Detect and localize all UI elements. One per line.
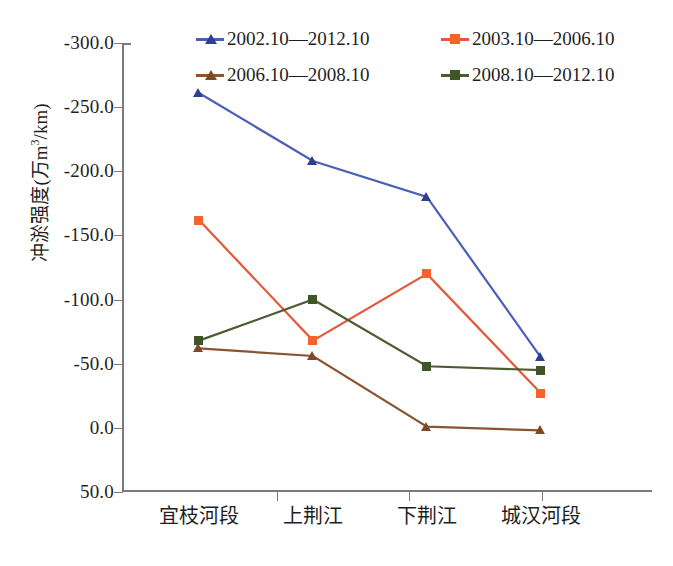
y-axis-tick	[114, 235, 123, 236]
legend-swatch	[441, 68, 469, 82]
legend-label: 2008.10—2012.10	[472, 64, 615, 86]
legend-item[interactable]: 2003.10—2006.10	[441, 28, 615, 50]
data-point-marker	[194, 336, 203, 345]
legend-swatch	[196, 32, 224, 46]
legend-swatch	[441, 32, 469, 46]
data-point-marker	[536, 366, 545, 375]
data-point-marker	[536, 389, 545, 398]
legend-item[interactable]: 2008.10—2012.10	[441, 64, 615, 86]
data-point-marker	[308, 336, 317, 345]
y-axis-tick-label: 50.0	[24, 482, 114, 501]
data-point-marker	[421, 422, 431, 431]
y-axis-tick	[114, 43, 123, 44]
data-point-marker	[307, 156, 317, 165]
y-axis-tick	[114, 171, 123, 172]
data-point-marker	[535, 425, 545, 434]
legend-label: 2002.10—2012.10	[227, 28, 370, 50]
legend-label: 2006.10—2008.10	[227, 64, 370, 86]
legend-item[interactable]: 2002.10—2012.10	[196, 28, 370, 50]
legend-item[interactable]: 2006.10—2008.10	[196, 64, 370, 86]
data-point-marker	[307, 351, 317, 360]
y-axis-tick	[114, 364, 123, 365]
y-axis-tick	[114, 492, 123, 493]
y-axis-tick	[114, 107, 123, 108]
data-point-marker	[422, 362, 431, 371]
y-axis-tick-label: -300.0	[24, 33, 114, 52]
legend-label: 2003.10—2006.10	[472, 28, 615, 50]
y-axis-tick	[114, 300, 123, 301]
data-point-marker	[422, 269, 431, 278]
data-point-marker	[535, 352, 545, 361]
legend-swatch	[196, 68, 224, 82]
y-axis-tick-label: 0.0	[24, 418, 114, 437]
data-point-marker	[308, 295, 317, 304]
y-axis-title: 冲淤强度(万m3/km)	[25, 53, 52, 313]
x-axis-tick-label: 城汉河段	[466, 500, 616, 529]
y-axis-tick	[114, 428, 123, 429]
y-axis-tick-label: -50.0	[24, 354, 114, 373]
chart-container: -300.0-250.0-200.0-150.0-100.0-50.00.050…	[0, 0, 673, 566]
y-axis-top-cap	[122, 43, 131, 45]
plot-area	[122, 43, 652, 492]
chart-legend: 2002.10—2012.102003.10—2006.102006.10—20…	[196, 28, 646, 92]
data-point-marker	[194, 216, 203, 225]
data-point-marker	[421, 192, 431, 201]
